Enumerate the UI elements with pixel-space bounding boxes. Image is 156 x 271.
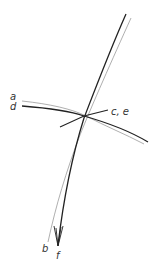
label-b: b xyxy=(42,244,48,254)
line-b xyxy=(48,18,131,242)
force-diagram: a d c, e b f xyxy=(0,0,156,271)
label-d: d xyxy=(10,102,16,112)
line-f xyxy=(58,14,126,245)
label-ce: c, e xyxy=(111,107,129,117)
label-f: f xyxy=(56,251,60,261)
diagram-lines xyxy=(0,0,156,271)
